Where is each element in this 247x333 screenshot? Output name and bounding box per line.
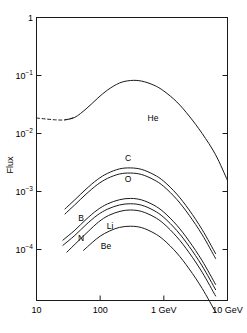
curve-label-b: B xyxy=(78,213,84,223)
flux-spectrum-chart: 110−110−210−310−4 101001 GeV10 GeV Flux … xyxy=(0,0,247,333)
y-tick-label: 1 xyxy=(28,13,33,23)
curve-label-n: N xyxy=(78,233,84,243)
y-axis-title: Flux xyxy=(5,156,15,174)
y-tick-label: 10−2 xyxy=(16,127,34,139)
plot-frame xyxy=(37,18,228,301)
curve-label-be: Be xyxy=(101,241,112,251)
y-axis-ticks-left xyxy=(37,18,42,250)
curve-label-c: C xyxy=(125,153,131,163)
y-axis-tick-labels: 110−110−210−310−4 xyxy=(16,13,34,255)
x-axis-tick-labels: 101001 GeV10 GeV xyxy=(31,305,242,315)
figure-container: 110−110−210−310−4 101001 GeV10 GeV Flux … xyxy=(0,0,247,333)
data-curves xyxy=(37,80,228,312)
x-tick-label: 100 xyxy=(93,305,108,315)
x-tick-label: 10 GeV xyxy=(212,305,243,315)
y-tick-label: 10−4 xyxy=(16,243,34,255)
y-axis-ticks-right xyxy=(223,18,228,250)
x-tick-label: 1 GeV xyxy=(151,305,177,315)
curve-label-he: He xyxy=(148,113,159,123)
curve-label-li: Li xyxy=(107,221,114,231)
y-tick-label: 10−3 xyxy=(16,185,34,197)
x-tick-label: 10 xyxy=(31,305,41,315)
x-axis-ticks-bottom xyxy=(100,296,164,301)
curve-he xyxy=(65,80,228,180)
curve-be xyxy=(84,226,216,312)
y-tick-label: 10−1 xyxy=(16,69,34,81)
curve-label-o: O xyxy=(125,174,132,184)
